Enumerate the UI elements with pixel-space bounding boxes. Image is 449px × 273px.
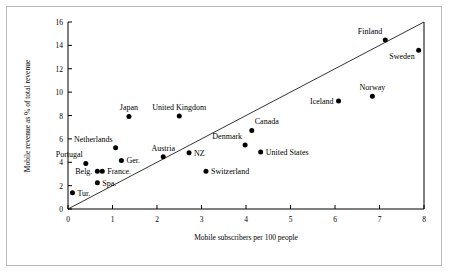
- point-label-iceland: Iceland: [310, 97, 334, 106]
- data-point-norway: [370, 94, 375, 99]
- y-tick-label: 16: [56, 18, 64, 27]
- x-tick-label: 4: [244, 215, 248, 224]
- point-label-sweden: Sweden: [389, 52, 414, 61]
- y-axis-title: Mobile revenue as % of total revenue: [23, 59, 32, 172]
- y-tick-label: 10: [56, 88, 64, 97]
- data-point-japan: [126, 114, 131, 119]
- data-point-sweden: [416, 48, 421, 53]
- data-point-portugal: [83, 161, 88, 166]
- point-label-unitedstates: United States: [266, 148, 309, 157]
- data-point-switzerland: [203, 169, 208, 174]
- reference-line: [68, 22, 424, 209]
- y-tick-label: 2: [59, 182, 63, 191]
- point-label-canada: Canada: [255, 117, 279, 126]
- x-tick-label: 3: [200, 215, 204, 224]
- reference-line-path: [68, 22, 424, 209]
- point-label-portugal: Portugal: [56, 150, 84, 159]
- x-tick-label: 7: [378, 215, 382, 224]
- point-label-france: France.: [107, 167, 131, 176]
- point-label-denmark: Denmark: [212, 132, 242, 141]
- point-label-unitedkingdom: United Kingdom: [152, 103, 207, 112]
- y-tick-label: 14: [56, 41, 64, 50]
- x-tick-label: 6: [333, 215, 337, 224]
- point-label-belg: Belg.: [75, 167, 92, 176]
- y-tick-label: 0: [59, 205, 63, 214]
- data-point-finland: [383, 38, 388, 43]
- data-point-unitedkingdom: [177, 114, 182, 119]
- y-tick-label: 6: [59, 135, 63, 144]
- data-point-nz: [187, 150, 192, 155]
- point-label-finland: Finland: [358, 27, 382, 36]
- y-tick-label: 4: [59, 158, 63, 167]
- scatter-chart: 0123456780246810121416 Tur.PortugalBelg.…: [0, 0, 449, 273]
- x-tick-label: 5: [289, 215, 293, 224]
- data-point-denmark: [243, 142, 248, 147]
- point-label-nz: NZ: [194, 149, 205, 158]
- x-axis-title: Mobile subscribers per 100 people: [194, 233, 298, 242]
- point-label-spa: Spa.: [102, 179, 116, 188]
- point-label-ger: Ger.: [126, 156, 140, 165]
- point-label-norway: Norway: [359, 83, 385, 92]
- point-label-austria: Austria: [151, 144, 175, 153]
- data-point-canada: [249, 128, 254, 133]
- point-labels: Tur.PortugalBelg.France.Spa.NetherlandsG…: [56, 27, 415, 198]
- point-label-japan: Japan: [120, 103, 138, 112]
- x-tick-label: 0: [66, 215, 70, 224]
- data-point-tur: [70, 190, 75, 195]
- point-label-netherlands: Netherlands: [74, 135, 113, 144]
- data-point-spa: [95, 180, 100, 185]
- point-label-switzerland: Switzerland: [211, 167, 249, 176]
- y-tick-label: 8: [59, 112, 63, 121]
- data-point-unitedstates: [258, 149, 263, 154]
- data-point-france: [100, 169, 105, 174]
- data-point-belg: [95, 169, 100, 174]
- data-point-netherlands: [113, 145, 118, 150]
- x-tick-label: 1: [111, 215, 115, 224]
- x-tick-label: 8: [422, 215, 426, 224]
- y-tick-label: 12: [56, 65, 64, 74]
- point-label-tur: Tur.: [77, 189, 90, 198]
- data-point-iceland: [336, 98, 341, 103]
- chart-axes: 0123456780246810121416: [56, 18, 427, 224]
- x-tick-label: 2: [155, 215, 159, 224]
- data-point-austria: [161, 154, 166, 159]
- data-point-ger: [119, 158, 124, 163]
